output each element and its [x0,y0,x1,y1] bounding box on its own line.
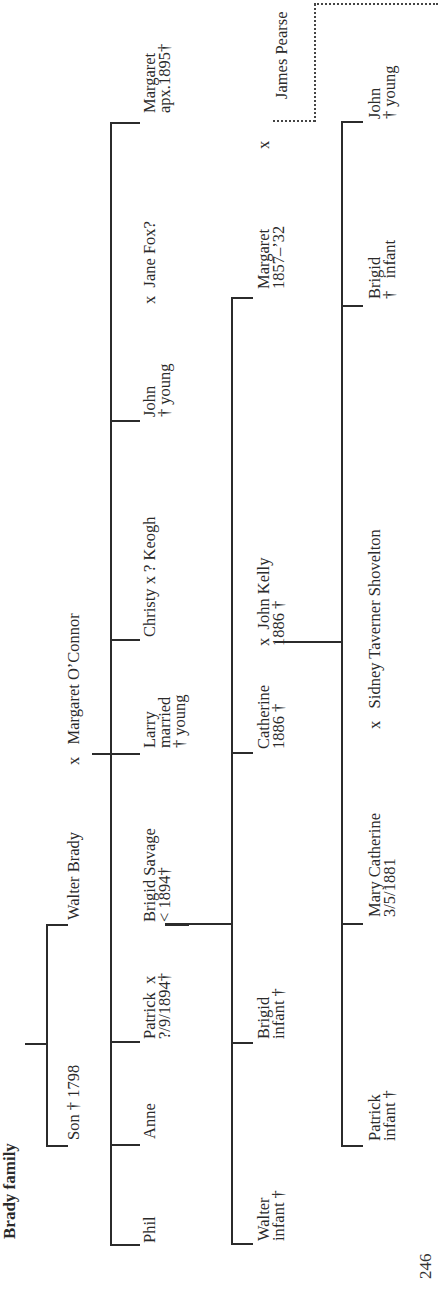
gen3-tick-brigid [231,1042,253,1044]
marriage-x: x [256,141,271,149]
gen2-marriage-cross [92,753,140,755]
family-tree-page: Brady family 246 Son † 1798 Walter Brady… [0,0,438,1289]
gen3-marriage-connector [275,641,343,643]
gen1-bracket-line [46,924,48,1147]
gen1-tick-walter [46,924,68,926]
gen4-bracket-line [341,122,343,1147]
gen4-tick-brigid [341,305,363,307]
gen3-tick-catherine [231,752,253,754]
dotted-link-horizontal [314,4,316,122]
gen2-to-gen3-connector [165,923,232,925]
spouse-john-kelly: x John Kelly 1886 † [256,558,286,646]
gen2-tick-margaret [110,122,140,124]
person-christy: Christy x ? Keogh [142,516,157,637]
person-larry: Larry married † young [142,694,187,748]
spouse-jane-fox: x Jane Fox? [142,221,157,304]
gen1-tick-son [46,1145,68,1147]
dotted-link-vertical-1 [273,120,315,122]
page-title: Brady family [2,1143,17,1239]
spouse-sidney-shovelton: x Sidney Taverner Shovelton [367,529,382,729]
person-anne: Anne [142,1103,157,1139]
person-walter-infant: Walter infant † [256,1190,286,1241]
person-brigid-infant-gen4: Brigid † infant [367,240,397,299]
person-mary-catherine: Mary Catherine 3/5/1881 [367,813,397,917]
person-brigid-infant: Brigid infant † [256,988,286,1039]
gen2-tick-john [110,420,140,422]
gen3-tick-walter [231,1243,253,1245]
gen4-tick-patrick [341,1145,363,1147]
gen3-bracket-line [231,297,233,1245]
person-walter-brady: Walter Brady [66,832,81,920]
gen2-tick-patrick [110,1041,140,1043]
gen2-tick-christy [110,639,140,641]
dotted-link-vertical-2 [314,3,438,5]
person-phil: Phil [142,1216,157,1243]
person-margaret-1857: Margaret 1857–’32 [256,226,286,289]
person-patrick: Patrick x ?/9/1894† [142,973,172,1039]
gen4-tick-mary-catherine [341,923,363,925]
person-patrick-infant: Patrick infant † [367,1090,397,1141]
spouse-brigid-savage: Brigid Savage < 1894† [142,828,172,922]
person-catherine: Catherine 1886 † [256,685,286,749]
gen2-tick-anne [110,1144,140,1146]
person-margaret-1895: Margaret apx.1895† [142,44,172,113]
spouse-margaret-oconnor: x Margaret O’Connor [66,613,81,765]
gen2-tick-phil [110,1244,140,1246]
gen2-bracket-line [110,122,112,1246]
person-son-1798: Son † 1798 [66,1065,81,1140]
spouse-james-pearse: James Pearse [274,11,289,99]
person-john: John † young [142,363,172,417]
page-number: 246 [418,1254,433,1280]
gen1-tick-parent [25,1043,47,1045]
person-john-young: John † young [367,65,397,119]
gen4-tick-john [341,121,363,123]
gen3-tick-margaret [231,297,253,299]
